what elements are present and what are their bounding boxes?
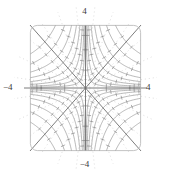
axis-label-left: −4 — [3, 83, 13, 92]
plot-canvas — [0, 0, 169, 179]
axis-label-bottom: −4 — [0, 160, 169, 169]
phase-portrait-figure: 4 −4 −4 4 — [0, 0, 169, 179]
axis-label-right: 4 — [146, 83, 151, 92]
separatrix-lines — [14, 7, 157, 169]
axis-label-top: 4 — [0, 7, 169, 16]
